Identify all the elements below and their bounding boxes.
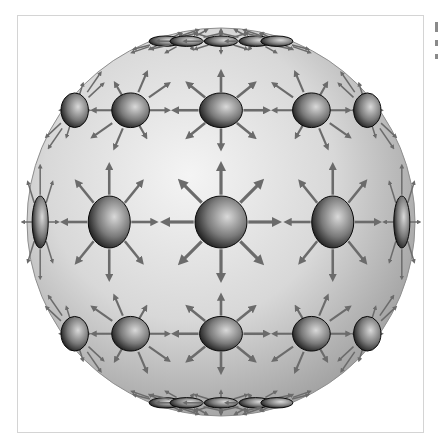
charge-sphere xyxy=(88,196,130,248)
charge-sphere xyxy=(293,316,331,351)
caption-fragment xyxy=(435,22,438,32)
charge-sphere xyxy=(61,316,88,351)
charge-sphere xyxy=(200,93,243,128)
charge-sphere xyxy=(195,196,247,248)
charge-sphere xyxy=(200,316,243,351)
point-charge xyxy=(175,297,267,371)
charge-sphere xyxy=(32,196,48,248)
charge-sphere xyxy=(354,316,381,351)
charges-layer xyxy=(23,30,419,414)
charge-sphere xyxy=(293,93,331,128)
charge-sphere xyxy=(261,36,293,46)
point-charge xyxy=(165,166,277,278)
point-charge xyxy=(175,73,267,147)
point-charge xyxy=(288,166,378,278)
charge-sphere xyxy=(261,398,293,408)
caption-fragment xyxy=(435,40,438,46)
charge-sphere xyxy=(61,93,88,128)
cropped-caption-fragments xyxy=(433,18,441,68)
charge-sphere xyxy=(312,196,354,248)
point-charge xyxy=(23,166,58,278)
caption-fragment xyxy=(435,54,438,59)
charge-sphere xyxy=(112,93,150,128)
charged-sphere-diagram xyxy=(0,0,441,446)
charge-sphere xyxy=(394,196,410,248)
point-charge xyxy=(385,166,420,278)
point-charge xyxy=(64,166,154,278)
charge-sphere xyxy=(354,93,381,128)
charge-sphere xyxy=(112,316,150,351)
